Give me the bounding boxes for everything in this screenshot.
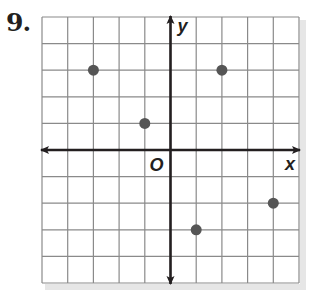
origin-label: O bbox=[150, 155, 164, 175]
shadow-bottom bbox=[45, 284, 306, 290]
axes bbox=[41, 16, 300, 284]
y-axis-label: y bbox=[177, 16, 189, 36]
data-point bbox=[216, 65, 227, 76]
grid-shadow bbox=[45, 20, 306, 290]
shadow-right bbox=[300, 20, 306, 290]
data-point bbox=[268, 198, 279, 209]
coordinate-plane: y x O bbox=[0, 0, 322, 306]
data-point bbox=[88, 65, 99, 76]
data-point bbox=[191, 224, 202, 235]
x-axis-label: x bbox=[284, 154, 296, 174]
data-point bbox=[139, 118, 150, 129]
